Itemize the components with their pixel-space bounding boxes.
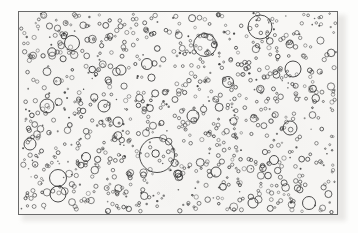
circle-scatter-canvas <box>19 12 337 214</box>
circle-group <box>20 12 337 214</box>
figure-root <box>0 0 358 233</box>
plate-frame <box>18 11 338 215</box>
